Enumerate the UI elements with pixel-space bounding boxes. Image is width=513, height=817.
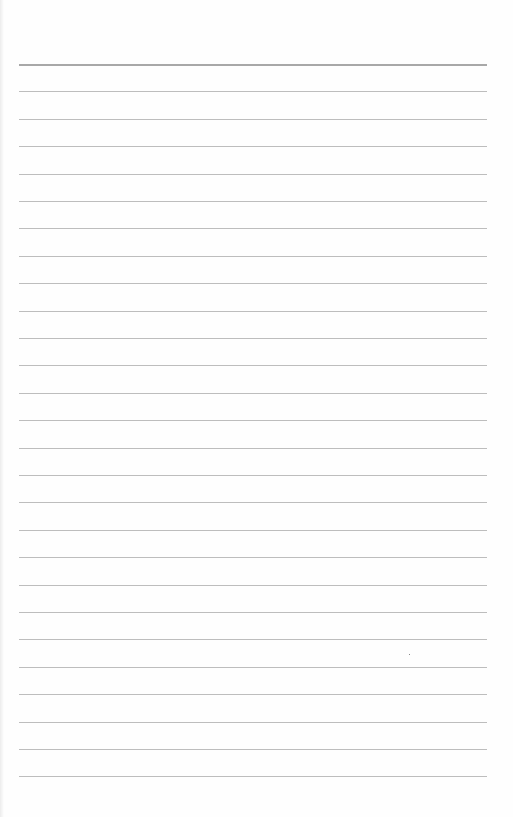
rule-line (19, 311, 487, 312)
rule-line (19, 174, 487, 175)
rule-line (19, 448, 487, 449)
rule-line (19, 502, 487, 503)
rule-line (19, 667, 487, 668)
lined-paper-page (0, 0, 513, 817)
rule-line (19, 393, 487, 394)
rule-line (19, 585, 487, 586)
rule-line (19, 639, 487, 640)
rule-line (19, 420, 487, 421)
rule-line (19, 749, 487, 750)
rule-line (19, 475, 487, 476)
top-rule-line (19, 64, 487, 66)
rule-line (19, 530, 487, 531)
rule-line (19, 612, 487, 613)
rule-line (19, 283, 487, 284)
rule-line (19, 776, 487, 777)
rule-line (19, 91, 487, 92)
rule-line (19, 201, 487, 202)
rule-line (19, 694, 487, 695)
rule-line (19, 557, 487, 558)
page-left-edge-shadow (0, 0, 4, 817)
rule-line (19, 338, 487, 339)
rule-line (19, 365, 487, 366)
rule-line (19, 256, 487, 257)
rule-line (19, 119, 487, 120)
rule-line (19, 228, 487, 229)
paper-speck (409, 654, 410, 655)
rule-line (19, 146, 487, 147)
rule-line (19, 722, 487, 723)
